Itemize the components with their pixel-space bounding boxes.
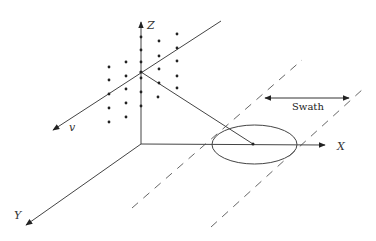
sensor-dot	[140, 105, 143, 108]
sensor-dot	[140, 91, 143, 94]
z-axis-label: Z	[146, 19, 155, 32]
sensor-dot	[140, 77, 143, 80]
sensor-dot	[176, 75, 179, 78]
y-axis	[26, 144, 141, 225]
swath-diagram: Z X Y v Swath	[0, 0, 376, 241]
sensor-center-dot	[139, 70, 142, 73]
sensor-dot	[140, 36, 143, 39]
sensor-dot	[108, 107, 111, 110]
sensor-dot	[176, 47, 179, 50]
sensor-dot	[158, 82, 161, 85]
velocity-label: v	[69, 121, 76, 134]
sensor-dot	[108, 93, 111, 96]
sensor-dot	[176, 60, 179, 63]
velocity-vector	[53, 21, 221, 130]
sensor-dot	[108, 121, 111, 124]
sensor-array	[108, 33, 179, 124]
footprint-center-dot	[252, 143, 255, 146]
sensor-dot	[176, 87, 179, 90]
sensor-dot	[125, 102, 128, 105]
sensor-dot	[125, 75, 128, 78]
swath-label: Swath	[292, 101, 324, 112]
sensor-dot	[157, 96, 160, 99]
sensor-dot	[140, 49, 143, 52]
sensor-dot	[140, 61, 143, 64]
sensor-dot	[158, 40, 161, 43]
sensor-dot	[125, 116, 128, 119]
sensor-dot	[108, 79, 111, 82]
y-axis-label: Y	[14, 209, 23, 222]
sensor-dot	[158, 55, 161, 58]
sensor-dot	[158, 68, 161, 71]
swath-boundary-right	[211, 89, 363, 227]
sensor-dot	[125, 88, 128, 91]
sensor-dot	[108, 66, 111, 69]
sensor-dot	[125, 61, 128, 64]
x-axis-label: X	[336, 140, 346, 153]
sensor-dot	[176, 33, 179, 36]
